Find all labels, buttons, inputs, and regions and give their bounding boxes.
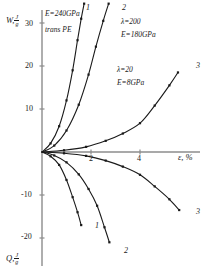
curve-4 — [42, 152, 81, 225]
annotation-curve1-line1: E=240GPa — [45, 10, 80, 18]
data-marker — [85, 155, 87, 157]
x-axis-label: ε, % — [178, 153, 193, 162]
curve-number-2-work: 2 — [122, 4, 126, 12]
data-marker — [105, 140, 107, 142]
curve-5 — [42, 152, 109, 242]
data-marker — [103, 226, 105, 228]
data-marker — [65, 179, 67, 181]
y-tick-30: 30 — [25, 20, 33, 28]
data-marker — [168, 84, 170, 86]
curve-number-3-heat: 3 — [196, 208, 200, 216]
annotation-curve3-line2: E=8GPa — [117, 79, 144, 87]
data-marker — [87, 74, 89, 76]
data-marker — [108, 241, 110, 243]
annotation-curve2-line2: E=180GPa — [121, 31, 156, 39]
data-marker — [177, 71, 179, 73]
data-marker — [76, 39, 78, 41]
y-axis-label-heat: Q,Jg — [6, 252, 19, 266]
data-marker — [80, 224, 82, 226]
data-marker — [53, 154, 55, 156]
data-marker — [96, 205, 98, 207]
annotation-curve2-line1: λ=200 — [121, 18, 141, 26]
data-marker — [83, 3, 85, 5]
y-axis-label-work: W,Jg — [6, 14, 19, 28]
data-marker — [105, 160, 107, 162]
annotation-curve3-line1: λ=20 — [117, 66, 133, 74]
data-marker — [63, 149, 65, 151]
curve-number-1-work: 1 — [86, 4, 90, 12]
data-marker — [87, 188, 89, 190]
data-marker — [80, 18, 82, 20]
data-marker — [63, 152, 65, 154]
y-tick-neg20: -20 — [21, 233, 32, 241]
data-marker — [102, 20, 104, 22]
curve-number-3-work: 3 — [196, 62, 200, 70]
data-marker — [108, 3, 110, 5]
curve-number-2-heat: 2 — [124, 247, 128, 255]
data-marker — [85, 146, 87, 148]
data-marker — [78, 173, 80, 175]
data-marker — [58, 125, 60, 127]
data-marker — [49, 142, 51, 144]
data-marker — [53, 144, 55, 146]
data-marker — [139, 122, 141, 124]
y-tick-20: 20 — [25, 62, 33, 70]
y-tick-neg10: -10 — [21, 191, 32, 199]
data-marker — [95, 46, 97, 48]
data-marker — [122, 166, 124, 168]
data-marker — [178, 209, 180, 211]
curve-3 — [42, 72, 178, 152]
annotation-curve1-line2: trans PE — [45, 26, 71, 34]
data-marker — [122, 132, 124, 134]
curve-6 — [42, 152, 179, 210]
data-marker — [76, 211, 78, 213]
data-marker — [168, 198, 170, 200]
data-marker — [72, 69, 74, 71]
data-marker — [58, 164, 60, 166]
data-marker — [65, 129, 67, 131]
x-tick-4: 4 — [137, 155, 141, 163]
data-marker — [154, 104, 156, 106]
figure-container: W,Jg Q,Jg ε, % 30 20 10 -10 -20 2 4 E=24… — [0, 0, 210, 276]
x-tick-2: 2 — [89, 155, 93, 163]
data-marker — [49, 155, 51, 157]
curve-number-1-heat: 1 — [95, 222, 99, 230]
data-marker — [78, 104, 80, 106]
data-marker — [65, 161, 67, 163]
data-marker — [154, 185, 156, 187]
y-tick-10: 10 — [25, 105, 33, 113]
data-marker — [65, 99, 67, 101]
data-marker — [139, 174, 141, 176]
data-marker — [72, 196, 74, 198]
